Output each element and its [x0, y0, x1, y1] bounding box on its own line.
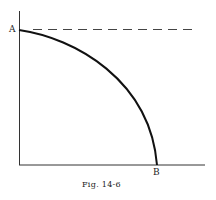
figure-caption: Fig. 14-6 [82, 181, 121, 189]
figure-diagram [0, 0, 216, 200]
curve-a-b [19, 30, 157, 165]
label-b: B [153, 168, 160, 177]
label-a: A [9, 25, 16, 34]
